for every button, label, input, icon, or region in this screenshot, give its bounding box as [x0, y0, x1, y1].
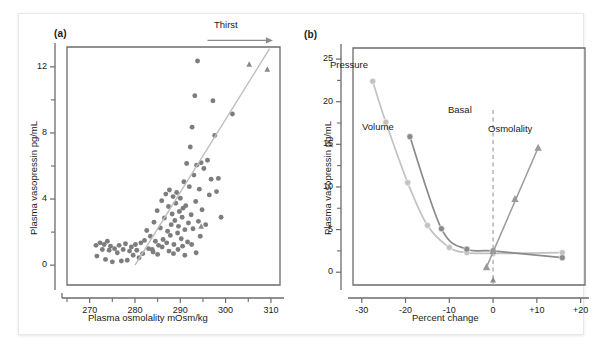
x-tick-label-280: 280 — [118, 305, 152, 315]
series-basal-marker — [490, 277, 496, 283]
y-tick-label-5: 5 — [300, 224, 333, 234]
y-tick-label-12: 12 — [0, 61, 47, 71]
series-label-volume: Volume — [362, 121, 394, 132]
x-tick-label-2: -10 — [432, 305, 466, 315]
panel-b: (b) Pressure Volume Osmolality Basal Per… — [300, 0, 600, 359]
series-circles — [94, 59, 235, 265]
x-tick-label-310: 310 — [254, 305, 288, 315]
series-volume — [407, 134, 566, 261]
x-tick-label-3: 0 — [476, 305, 510, 315]
y-tick-label-15: 15 — [300, 138, 333, 148]
y-tick-label-10: 10 — [300, 181, 333, 191]
series-label-pressure: Pressure — [330, 59, 368, 70]
y-tick-label-8: 8 — [0, 127, 47, 137]
y-tick-label-0: 0 — [0, 259, 47, 269]
x-tick-label-0: -30 — [345, 305, 379, 315]
x-tick-label-270: 270 — [73, 305, 107, 315]
figure-container: (a) Thirst Plasma osmolality mOsm/kg Pla… — [0, 0, 600, 359]
y-tick-label-25: 25 — [300, 53, 333, 63]
thirst-arrow-icon — [207, 37, 272, 43]
panel-a-y-axis-title: Plasma vasopressin pg/mL — [28, 121, 39, 235]
y-tick-label-20: 20 — [300, 96, 333, 106]
y-tick-label-4: 4 — [0, 193, 47, 203]
x-tick-label-1: -20 — [389, 305, 423, 315]
x-tick-label-290: 290 — [163, 305, 197, 315]
series-label-osmolality: Osmolality — [488, 123, 532, 134]
series-osmolality — [483, 144, 542, 270]
x-tick-label-5: +20 — [564, 305, 598, 315]
x-tick-label-4: +10 — [520, 305, 554, 315]
series-regression-line — [135, 49, 270, 266]
panel-a: (a) Thirst Plasma osmolality mOsm/kg Pla… — [0, 0, 300, 359]
basal-annotation-label: Basal — [448, 104, 472, 115]
y-tick-label-0: 0 — [300, 266, 333, 276]
x-tick-label-300: 300 — [209, 305, 243, 315]
